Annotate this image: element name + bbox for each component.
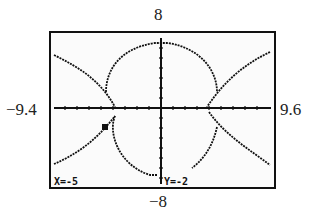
x-readout: X=-5 [54, 176, 78, 187]
y-readout: Y=-2 [164, 176, 188, 187]
graph-frame [50, 32, 275, 188]
calculator-graph-screen: X=-5 Y=-2 [0, 0, 318, 214]
trace-cursor [102, 124, 108, 130]
